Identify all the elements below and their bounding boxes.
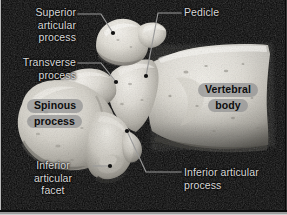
- label-spinous-process: Spinousprocess: [27, 98, 91, 129]
- label-vertebral-body-text-1: Vertebral: [198, 83, 258, 97]
- label-inferior-articular-facet-line-2: articular: [16, 172, 90, 185]
- label-spinous-process-line-2: process: [27, 114, 91, 130]
- label-spinous-process-text-2: process: [27, 115, 82, 129]
- label-superior-articular-process: Superiorarticularprocess: [8, 6, 76, 44]
- label-superior-articular-process-line-2: articular: [8, 19, 76, 32]
- label-inferior-articular-process-line-1: Inferior articular: [184, 166, 280, 179]
- label-vertebral-body-text-2: body: [208, 99, 247, 113]
- label-spinous-process-text-1: Spinous: [27, 99, 83, 113]
- label-inferior-articular-facet-line-1: Inferior: [16, 159, 90, 172]
- label-spinous-process-line-1: Spinous: [27, 98, 91, 114]
- vertebra-figure: SuperiorarticularprocessTransverseproces…: [0, 0, 287, 215]
- frame-edge-left: [0, 0, 2, 215]
- label-vertebral-body-line-2: body: [192, 98, 264, 114]
- label-inferior-articular-process: Inferior articularprocess: [184, 166, 280, 191]
- label-inferior-articular-process-line-2: process: [184, 179, 280, 192]
- label-transverse-process: Transverseprocess: [4, 56, 76, 81]
- frame-edge-right: [285, 0, 287, 215]
- label-superior-articular-process-line-1: Superior: [8, 6, 76, 19]
- label-pedicle-line-1: Pedicle: [184, 6, 244, 19]
- label-transverse-process-line-2: process: [4, 69, 76, 82]
- label-inferior-articular-facet: Inferiorarticularfacet: [16, 159, 90, 197]
- label-vertebral-body: Vertebralbody: [192, 82, 264, 113]
- label-superior-articular-process-line-3: process: [8, 31, 76, 44]
- label-vertebral-body-line-1: Vertebral: [192, 82, 264, 98]
- label-transverse-process-line-1: Transverse: [4, 56, 76, 69]
- label-pedicle: Pedicle: [184, 6, 244, 19]
- label-inferior-articular-facet-line-3: facet: [16, 184, 90, 197]
- frame-edge-bottom: [0, 210, 287, 215]
